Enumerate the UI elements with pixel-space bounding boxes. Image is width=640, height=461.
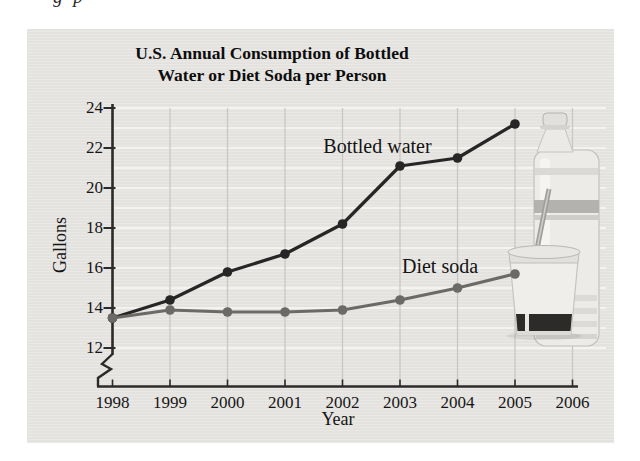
bottled-water-point: [395, 161, 405, 171]
textbook-figure: g p: [0, 0, 640, 461]
bottled-water-point: [280, 249, 290, 259]
x-axis-title: Year: [303, 409, 373, 430]
chart-title: U.S. Annual Consumption of Bottled Water…: [92, 42, 452, 86]
bottled-water-point: [223, 267, 233, 277]
bottled-water-series-label: Bottled water: [305, 135, 450, 158]
diet-soda-point: [223, 307, 233, 317]
y-axis-title: Gallons: [50, 205, 72, 285]
diet-soda-point: [395, 295, 405, 305]
bottled-water-point: [510, 119, 520, 129]
chart-title-line2: Water or Diet Soda per Person: [92, 64, 452, 86]
diet-soda-point: [510, 269, 520, 279]
diet-soda-point: [280, 307, 290, 317]
diet-soda-point: [165, 305, 175, 315]
diet-soda-cup-image: [506, 246, 582, 341]
diet-soda-point: [108, 313, 118, 323]
bottled-water-point: [165, 295, 175, 305]
diet-soda-point: [338, 305, 348, 315]
chart-title-line1: U.S. Annual Consumption of Bottled: [92, 42, 452, 64]
bottled-water-point: [453, 153, 463, 163]
diet-soda-point: [453, 283, 463, 293]
diet-soda-series-label: Diet soda: [394, 255, 486, 278]
y-axis-break-icon: [98, 354, 113, 387]
bottled-water-point: [338, 219, 348, 229]
